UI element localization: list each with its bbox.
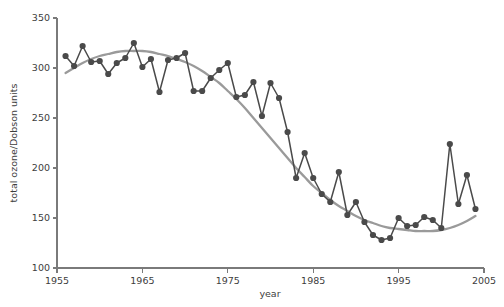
data-point-marker	[361, 219, 367, 225]
data-point-marker	[472, 206, 478, 212]
x-tick-label: 1975	[216, 275, 240, 286]
data-point-marker	[455, 201, 461, 207]
data-point-marker	[182, 50, 188, 56]
data-point-marker	[438, 225, 444, 231]
data-point-marker	[387, 235, 393, 241]
data-point-marker	[447, 141, 453, 147]
data-point-marker	[225, 60, 231, 66]
data-point-marker	[71, 63, 77, 69]
x-tick-label: 1985	[301, 275, 325, 286]
x-axis-group: 195519651975198519952005	[45, 268, 496, 286]
data-point-marker	[114, 60, 120, 66]
smoothed-trend-line	[66, 51, 476, 231]
x-tick-label: 1995	[387, 275, 411, 286]
data-point-marker	[464, 172, 470, 178]
y-tick-label: 300	[32, 62, 50, 73]
data-point-marker	[88, 59, 94, 65]
data-point-marker	[208, 75, 214, 81]
y-tick-label: 150	[32, 212, 50, 223]
data-point-marker	[396, 215, 402, 221]
data-point-marker	[199, 88, 205, 94]
data-point-marker	[259, 113, 265, 119]
data-point-marker	[62, 53, 68, 59]
data-point-marker	[131, 40, 137, 46]
data-point-marker	[80, 43, 86, 49]
data-point-marker	[148, 56, 154, 62]
data-point-marker	[165, 57, 171, 63]
y-tick-label: 350	[32, 12, 50, 23]
data-point-marker	[293, 175, 299, 181]
data-point-marker	[353, 199, 359, 205]
data-point-marker	[105, 71, 111, 77]
data-point-marker	[413, 222, 419, 228]
x-tick-label: 1955	[45, 275, 69, 286]
data-point-marker	[327, 199, 333, 205]
data-point-marker	[122, 55, 128, 61]
data-point-marker	[319, 191, 325, 197]
data-point-marker	[310, 175, 316, 181]
data-point-marker	[336, 169, 342, 175]
x-tick-label: 1965	[130, 275, 154, 286]
y-axis-group: 100150200250300350	[32, 12, 57, 273]
data-point-marker	[370, 232, 376, 238]
ozone-trend-chart: 100150200250300350 195519651975198519952…	[0, 0, 504, 307]
data-point-marker	[430, 217, 436, 223]
data-point-marker	[344, 212, 350, 218]
data-point-marker	[156, 89, 162, 95]
data-point-marker	[267, 80, 273, 86]
x-tick-label: 2005	[472, 275, 496, 286]
data-point-marker	[421, 214, 427, 220]
data-point-marker	[284, 129, 290, 135]
ozone-data-markers	[62, 40, 478, 243]
data-point-marker	[173, 55, 179, 61]
data-point-marker	[378, 237, 384, 243]
y-axis-title: total ozone/Dobson units	[8, 84, 19, 203]
data-point-marker	[404, 223, 410, 229]
y-tick-label: 250	[32, 112, 50, 123]
data-point-marker	[216, 67, 222, 73]
ozone-series-line	[66, 43, 476, 240]
data-point-marker	[233, 94, 239, 100]
y-tick-label: 100	[32, 262, 50, 273]
data-point-marker	[250, 79, 256, 85]
chart-canvas: 100150200250300350 195519651975198519952…	[0, 0, 504, 307]
data-point-marker	[97, 58, 103, 64]
x-axis-ticks: 195519651975198519952005	[45, 268, 496, 286]
y-tick-label: 200	[32, 162, 50, 173]
data-point-marker	[276, 95, 282, 101]
data-point-marker	[139, 64, 145, 70]
data-point-marker	[191, 88, 197, 94]
y-axis-ticks: 100150200250300350	[32, 12, 57, 273]
data-point-marker	[242, 92, 248, 98]
data-point-marker	[302, 150, 308, 156]
x-axis-title: year	[259, 288, 280, 299]
